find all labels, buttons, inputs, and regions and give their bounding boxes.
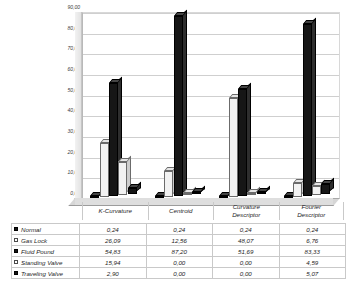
bar-cluster (211, 12, 276, 198)
bar-front-face (293, 183, 302, 197)
bar (284, 196, 293, 199)
bar-front-face (247, 193, 256, 196)
bar-front-face (219, 196, 228, 199)
legend-swatch-icon (14, 249, 18, 253)
table-cell-value: 4,59 (279, 257, 346, 268)
chart-figure: 90,0080,0070,0060,0050,0040,0030,0020,00… (0, 0, 353, 295)
table-cell-value: 0,00 (213, 268, 280, 279)
table-cell-value: 51,69 (213, 246, 280, 257)
bar-front-face (174, 16, 183, 196)
bar-front-face (100, 143, 109, 197)
legend-swatch-icon (14, 227, 18, 231)
bar-front-face (183, 193, 192, 196)
legend-entry: Traveling Valve (12, 268, 80, 279)
table-row: Standing Valve15,940,000,004,59 (12, 257, 346, 268)
x-axis-category-label: Centroid (148, 202, 214, 220)
legend-label: Traveling Valve (21, 270, 63, 277)
bar-front-face (90, 196, 99, 199)
x-axis-category-label: FourierDescriptor (279, 202, 345, 220)
table-cell-value: 83,33 (279, 246, 346, 257)
bar (192, 192, 201, 195)
table-cell-value: 0,24 (213, 224, 280, 235)
bar-front-face (303, 24, 312, 196)
bar (174, 16, 183, 196)
table-cell-value: 54,83 (80, 246, 147, 257)
table-cell-value: 15,94 (80, 257, 147, 268)
table-cell-value: 0,00 (146, 268, 213, 279)
legend-label: Standing Valve (21, 259, 62, 266)
x-axis-category-label: K-Curvature (82, 202, 148, 220)
chart-plot-region: 90,0080,0070,0060,0050,0040,0030,0020,00… (0, 4, 353, 216)
bar (321, 184, 330, 194)
table-cell-value: 0,24 (146, 224, 213, 235)
legend-label: Normal (21, 226, 41, 233)
table-cell-value: 48,07 (213, 235, 280, 246)
bar (155, 196, 164, 199)
bar-front-face (257, 192, 266, 195)
bar-front-face (229, 98, 238, 197)
legend-swatch-icon (14, 238, 18, 242)
table-cell-value: 0,00 (213, 257, 280, 268)
bar (219, 196, 228, 199)
chart-data-table: Normal0,240,240,240,24Gas Lock26,0912,56… (11, 223, 346, 279)
plot-area (82, 12, 340, 198)
bar (183, 193, 192, 196)
bar (100, 143, 109, 197)
bar-front-face (118, 162, 127, 195)
bar (293, 183, 302, 197)
bar-front-face (164, 171, 173, 197)
table-cell-value: 0,24 (80, 224, 147, 235)
bar (238, 89, 247, 196)
table-cell-value: 6,76 (279, 235, 346, 246)
legend-swatch-icon (14, 260, 18, 264)
bar (109, 83, 118, 196)
bar (312, 186, 321, 195)
bar-side-face (247, 83, 251, 193)
bar-front-face (321, 184, 330, 194)
bar-side-face (183, 10, 187, 193)
bar (90, 196, 99, 199)
table-cell-value: 0,00 (146, 257, 213, 268)
bar (257, 192, 266, 195)
bar (118, 162, 127, 195)
bar-cluster (276, 12, 341, 198)
bar-front-face (284, 196, 293, 199)
bar-front-face (192, 192, 201, 195)
legend-swatch-icon (14, 271, 18, 275)
legend-entry: Normal (12, 224, 80, 235)
bar-clusters (82, 12, 340, 198)
table-row: Gas Lock26,0912,5648,076,76 (12, 235, 346, 246)
bar (247, 193, 256, 196)
bar-front-face (128, 188, 137, 194)
x-axis-category-label: CurvatureDescriptor (213, 202, 279, 220)
legend-label: Gas Lock (21, 237, 47, 244)
bar-front-face (109, 83, 118, 196)
y-axis-tick-label: 90,00 (67, 4, 80, 10)
bar-front-face (312, 186, 321, 195)
chart-side-wall (75, 12, 82, 198)
bar-front-face (155, 196, 164, 199)
table-cell-value: 5,07 (279, 268, 346, 279)
bar (164, 171, 173, 197)
bar (229, 98, 238, 197)
legend-entry: Gas Lock (12, 235, 80, 246)
bar-side-face (312, 18, 316, 193)
table-row: Fluid Pound54,8387,2051,6983,33 (12, 246, 346, 257)
table-row: Traveling Valve2,900,000,005,07 (12, 268, 346, 279)
table-cell-value: 0,24 (279, 224, 346, 235)
table-cell-value: 2,90 (80, 268, 147, 279)
legend-entry: Standing Valve (12, 257, 80, 268)
bar-cluster (82, 12, 147, 198)
bar (303, 24, 312, 196)
x-axis-category-labels: K-CurvatureCentroidCurvatureDescriptorFo… (82, 202, 344, 220)
bar-front-face (238, 89, 247, 196)
bar-cluster (147, 12, 212, 198)
bar (128, 188, 137, 194)
legend-label: Fluid Pound (21, 248, 54, 255)
table-cell-value: 87,20 (146, 246, 213, 257)
table-cell-value: 26,09 (80, 235, 147, 246)
legend-entry: Fluid Pound (12, 246, 80, 257)
table-row: Normal0,240,240,240,24 (12, 224, 346, 235)
table-cell-value: 12,56 (146, 235, 213, 246)
